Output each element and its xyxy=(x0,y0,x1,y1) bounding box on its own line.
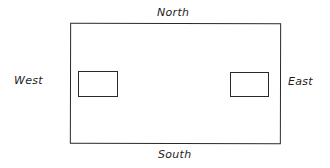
west-label: West xyxy=(14,75,43,86)
north-label: North xyxy=(157,7,189,18)
east-inner-rectangle xyxy=(230,72,269,97)
diagram-canvas: North West East South xyxy=(0,0,330,168)
west-inner-rectangle xyxy=(78,71,118,97)
east-label: East xyxy=(288,76,313,87)
south-label: South xyxy=(158,149,191,160)
